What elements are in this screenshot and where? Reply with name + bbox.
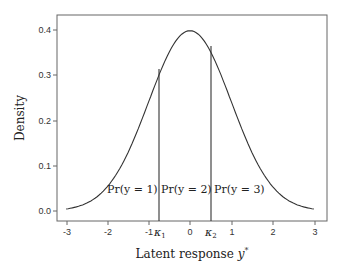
- pr1-annotation: Pr(y = 1): [107, 183, 158, 196]
- x-tick-label: 0: [187, 227, 192, 237]
- kappa1-label: κ1: [153, 226, 166, 240]
- x-tick-label: 2: [270, 227, 275, 237]
- pr2-annotation: Pr(y = 2): [161, 183, 212, 196]
- y-tick-label: 0.1: [38, 161, 51, 171]
- y-axis-label: Density: [13, 95, 27, 141]
- x-tick-label: -2: [104, 227, 112, 237]
- density-chart: 0.0 0.1 0.2 0.3 0.4 -3 -2 -1 0 1 2 3 κ1 …: [0, 0, 342, 271]
- x-axis: [67, 221, 315, 225]
- x-tick-label: -3: [63, 227, 71, 237]
- x-tick-label: 1: [229, 227, 234, 237]
- y-tick-label: 0.4: [38, 25, 51, 35]
- x-tick-label: -1: [145, 227, 153, 237]
- kappa2-label: κ2: [204, 226, 217, 240]
- x-tick-label: 3: [312, 227, 317, 237]
- y-tick-label: 0.0: [38, 206, 51, 216]
- y-axis: [53, 30, 57, 211]
- pr3-annotation: Pr(y = 3): [214, 183, 265, 196]
- y-tick-label: 0.2: [38, 116, 51, 126]
- x-axis-label: Latent response y*: [136, 246, 249, 261]
- y-tick-label: 0.3: [38, 70, 51, 80]
